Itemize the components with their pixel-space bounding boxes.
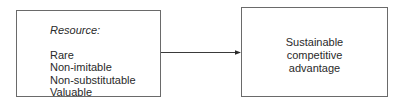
- outcome-line-3: advantage: [242, 62, 387, 75]
- resource-box: Resource: Rare Non-imitable Non-substitu…: [16, 10, 161, 97]
- outcome-content: Sustainable competitive advantage: [242, 36, 387, 75]
- attribute-non-imitable: Non-imitable: [50, 61, 136, 74]
- attribute-rare: Rare: [50, 49, 136, 62]
- outcome-line-2: competitive: [242, 49, 387, 62]
- outcome-line-1: Sustainable: [242, 36, 387, 49]
- resource-title: Resource:: [50, 24, 136, 37]
- resource-content: Resource: Rare Non-imitable Non-substitu…: [50, 24, 136, 99]
- outcome-box: Sustainable competitive advantage: [241, 7, 388, 97]
- attribute-non-substitutable: Non-substitutable: [50, 74, 136, 87]
- attribute-valuable: Valuable: [50, 86, 136, 99]
